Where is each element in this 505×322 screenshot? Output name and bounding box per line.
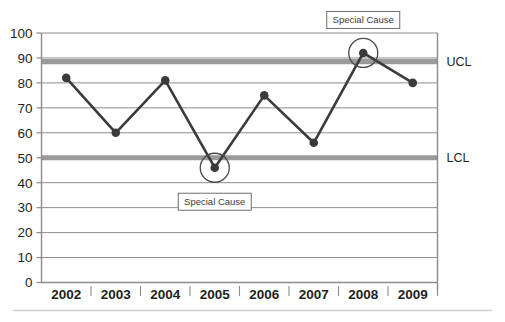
data-point-2008 <box>359 49 368 58</box>
y-tick-label: 30 <box>17 200 32 215</box>
y-tick-label: 60 <box>17 126 32 141</box>
data-point-2006 <box>260 91 269 100</box>
x-tick-label-2002: 2002 <box>51 287 81 302</box>
y-tick-label: 0 <box>25 275 33 290</box>
data-point-2007 <box>309 138 318 147</box>
x-tick-label-2003: 2003 <box>101 287 132 302</box>
data-point-2004 <box>161 76 170 85</box>
chart-background <box>0 0 505 322</box>
data-point-2009 <box>408 79 417 88</box>
annotation-label-2005: Special Cause <box>184 196 245 207</box>
control-limit-label-lcl: LCL <box>447 151 470 165</box>
x-tick-label-2006: 2006 <box>249 287 280 302</box>
y-tick-label: 40 <box>17 176 32 191</box>
y-tick-label: 20 <box>17 225 32 240</box>
x-tick-label-2009: 2009 <box>398 287 428 302</box>
control-limit-label-ucl: UCL <box>447 55 472 69</box>
y-tick-label: 90 <box>17 51 32 66</box>
x-tick-label-2004: 2004 <box>150 287 181 302</box>
x-tick-label-2007: 2007 <box>299 287 329 302</box>
y-tick-label: 100 <box>10 26 33 41</box>
data-point-2005 <box>210 163 219 172</box>
chart-canvas: 0102030405060708090100 20022003200420052… <box>0 0 505 322</box>
control-chart: 0102030405060708090100 20022003200420052… <box>0 0 505 322</box>
x-tick-label-2008: 2008 <box>348 287 379 302</box>
y-tick-label: 50 <box>17 151 32 166</box>
y-tick-label: 10 <box>17 250 32 265</box>
x-tick-label-2005: 2005 <box>200 287 231 302</box>
data-point-2003 <box>111 129 120 138</box>
y-tick-label: 80 <box>17 76 32 91</box>
y-tick-label: 70 <box>17 101 32 116</box>
annotation-label-2008: Special Cause <box>333 14 394 25</box>
data-point-2002 <box>62 74 71 83</box>
